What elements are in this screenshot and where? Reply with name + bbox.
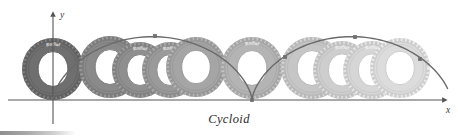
curve-marker-3 <box>283 55 287 59</box>
cycloid-figure: RadialRadialRadialRadialRadialRadial x y… <box>0 0 458 138</box>
y-axis-label: y <box>59 10 65 20</box>
curve-marker-1 <box>153 34 157 38</box>
wheel-5 <box>166 37 226 97</box>
curve-marker-4 <box>353 35 357 39</box>
curve-marker-5 <box>418 57 422 61</box>
wheel-stack: RadialRadialRadialRadialRadialRadial <box>22 36 430 100</box>
bottom-gradient-bar <box>0 131 76 135</box>
curve-marker-2 <box>250 98 254 102</box>
figure-caption: Cycloid <box>0 112 458 127</box>
wheel-6: Radial <box>221 37 283 99</box>
